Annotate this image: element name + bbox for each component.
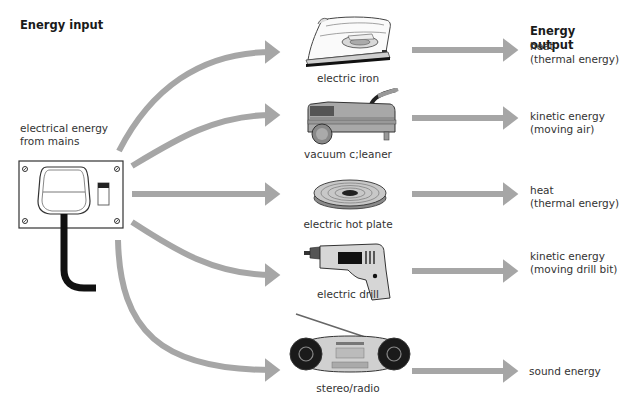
mains-socket-plug-icon [14,155,130,295]
hot-plate-icon [310,174,390,214]
stereo-radio-icon [288,312,412,378]
output-label-drill: kinetic energy (moving drill bit) [530,250,617,276]
iron-icon [300,12,396,70]
output-label-iron: heat (thermal energy) [530,40,619,66]
arrow-to-iron [119,52,272,151]
output-label-vacuum: kinetic energy (moving air) [530,110,605,136]
device-caption-iron: electric iron [278,72,418,84]
output-label-hotplate: heat (thermal energy) [530,184,619,210]
arrow-to-drill [132,222,272,275]
arrow-to-vacuum [132,115,272,166]
device-caption-stereo: stereo/radio [278,382,418,394]
output-arrows [412,50,510,371]
device-caption-vacuum: vacuum c;leaner [278,148,418,160]
device-caption-drill: electric drill [278,288,418,300]
vacuum-cleaner-icon [300,88,400,146]
input-arrows [118,52,272,370]
output-label-stereo: sound energy [529,365,601,378]
device-caption-hotplate: electric hot plate [278,218,418,230]
